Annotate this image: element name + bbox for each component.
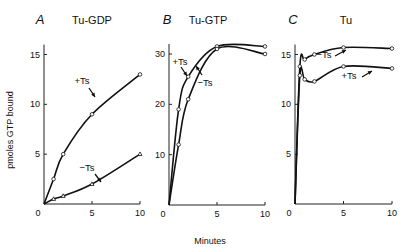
- circle-marker-icon: [177, 108, 181, 112]
- x-tick-label: 0: [160, 209, 165, 219]
- circle-marker-icon: [90, 113, 94, 117]
- x-tick-label: 10: [387, 208, 397, 218]
- x-axis-title: Minutes: [194, 236, 226, 246]
- series-label: −Ts: [316, 49, 331, 60]
- circle-marker-icon: [298, 74, 302, 78]
- panel-c: CTu510150510−Ts+Ts: [281, 12, 397, 218]
- panel-letter: C: [288, 12, 298, 27]
- circle-marker-icon: [215, 47, 219, 51]
- circle-marker-icon: [263, 45, 267, 49]
- panel-title: Tu-GTP: [189, 14, 228, 26]
- circle-marker-icon: [390, 67, 394, 71]
- circle-marker-icon: [177, 143, 181, 147]
- series-label: +Ts: [172, 56, 187, 67]
- figure: ATu-GDP510150510+Ts−TsBTu-GTP1020300510+…: [0, 0, 409, 251]
- triangle-marker-icon: [52, 197, 56, 201]
- x-tick-label: 5: [341, 208, 346, 218]
- y-tick-label: 20: [155, 99, 165, 109]
- circle-marker-icon: [263, 52, 267, 56]
- series-line: [295, 66, 392, 204]
- circle-marker-icon: [61, 152, 65, 156]
- x-tick-label: 5: [89, 208, 94, 218]
- x-tick-label: 0: [35, 208, 40, 218]
- series-minus-ts: −Ts: [44, 152, 142, 204]
- triangle-marker-icon: [138, 152, 142, 156]
- y-tick-label: 15: [281, 50, 291, 60]
- circle-marker-icon: [342, 65, 346, 69]
- panel-title: Tu: [340, 14, 352, 26]
- circle-marker-icon: [138, 73, 142, 77]
- series-label: +Ts: [74, 75, 89, 86]
- panel-title: Tu-GDP: [72, 14, 112, 26]
- y-tick-label: 15: [30, 50, 40, 60]
- y-tick-label: 10: [281, 99, 291, 109]
- series-plus-ts: +Ts: [169, 44, 267, 205]
- series-line: [169, 44, 265, 205]
- y-axis-title: pmoles GTP bound: [5, 91, 15, 168]
- circle-marker-icon: [303, 78, 307, 82]
- circle-marker-icon: [186, 98, 190, 102]
- x-tick-label: 5: [214, 209, 219, 219]
- circle-marker-icon: [313, 80, 317, 84]
- circle-marker-icon: [342, 46, 346, 50]
- circle-marker-icon: [52, 177, 56, 181]
- y-tick-label: 30: [155, 49, 165, 59]
- panel-b: BTu-GTP1020300510+Ts−Ts: [155, 12, 270, 219]
- triangle-marker-icon: [61, 194, 65, 198]
- series-plus-ts: +Ts: [295, 65, 394, 204]
- series-label: −Ts: [79, 162, 94, 173]
- x-tick-label: 10: [135, 208, 145, 218]
- panel-a: ATu-GDP510150510+Ts−Ts: [30, 12, 145, 218]
- series-label: +Ts: [341, 70, 356, 81]
- circle-marker-icon: [303, 58, 307, 62]
- panel-letter: B: [163, 12, 172, 27]
- x-tick-label: 0: [286, 208, 291, 218]
- y-tick-label: 5: [35, 149, 40, 159]
- x-tick-label: 10: [260, 209, 270, 219]
- y-tick-label: 5: [286, 149, 291, 159]
- panel-letter: A: [35, 12, 45, 27]
- y-tick-label: 10: [30, 99, 40, 109]
- circle-marker-icon: [390, 47, 394, 51]
- series-label: −Ts: [197, 77, 212, 88]
- y-tick-label: 10: [155, 150, 165, 160]
